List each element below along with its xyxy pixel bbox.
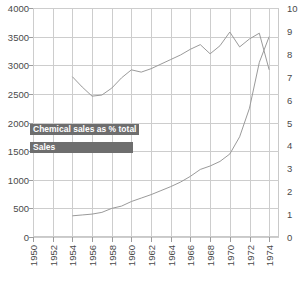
right-axis-tick-label: 10 <box>287 3 298 14</box>
x-axis-tick-label: 1960 <box>126 245 137 266</box>
x-axis-tick <box>92 237 93 242</box>
line-chemical-percent <box>72 32 269 96</box>
x-axis-tick <box>269 237 270 242</box>
right-axis-tick-label: 4 <box>287 140 292 151</box>
legend-sales: Sales <box>30 142 133 153</box>
x-axis-tick-label: 1964 <box>166 245 177 266</box>
left-axis-tick-label: 3500 <box>8 31 29 42</box>
right-axis-tick-label: 8 <box>287 48 292 59</box>
left-axis-tick-label: 1500 <box>8 146 29 157</box>
right-axis-tick-label: 9 <box>287 25 292 36</box>
right-axis-tick-label: 0 <box>287 232 292 243</box>
x-axis-tick <box>230 237 231 242</box>
legend-chemical-percent: Chemical sales as % total <box>30 124 139 135</box>
x-axis-tick-label: 1956 <box>87 245 98 266</box>
right-axis: 012345678910 <box>283 8 303 237</box>
x-axis-tick-label: 1958 <box>107 245 118 266</box>
x-axis-tick-label: 1968 <box>205 245 216 266</box>
x-axis-tick <box>72 237 73 242</box>
x-axis-tick <box>210 237 211 242</box>
right-axis-tick-label: 5 <box>287 117 292 128</box>
x-axis-tick <box>250 237 251 242</box>
right-axis-tick-label: 6 <box>287 94 292 105</box>
x-axis-tick-label: 1952 <box>48 245 59 266</box>
left-axis-tick-label: 2000 <box>8 117 29 128</box>
right-axis-tick-label: 2 <box>287 186 292 197</box>
x-axis-tick <box>171 237 172 242</box>
x-axis-tick-label: 1966 <box>185 245 196 266</box>
x-axis-tick-label: 1972 <box>245 245 256 266</box>
chart-container: 05001000150020002500300035004000 0123456… <box>0 0 304 285</box>
x-axis-tick <box>131 237 132 242</box>
x-axis-tick <box>151 237 152 242</box>
x-axis-tick <box>190 237 191 242</box>
left-axis-tick-label: 4000 <box>8 3 29 14</box>
series-lines <box>33 8 279 237</box>
x-axis-tick-label: 1970 <box>225 245 236 266</box>
x-axis-tick <box>33 237 34 242</box>
x-axis-tick-label: 1950 <box>28 245 39 266</box>
x-axis-tick <box>53 237 54 242</box>
right-axis-tick-label: 1 <box>287 209 292 220</box>
x-axis: 1950195219541956195819601962196419661968… <box>33 237 279 285</box>
x-axis-tick-label: 1962 <box>146 245 157 266</box>
left-axis-tick-label: 3000 <box>8 60 29 71</box>
left-axis-tick-label: 1000 <box>8 174 29 185</box>
x-axis-tick <box>112 237 113 242</box>
x-axis-tick-label: 1954 <box>67 245 78 266</box>
left-axis: 05001000150020002500300035004000 <box>0 8 29 237</box>
left-axis-tick-label: 2500 <box>8 88 29 99</box>
plot-area <box>33 8 279 237</box>
right-axis-tick-label: 7 <box>287 71 292 82</box>
x-axis-tick-label: 1974 <box>264 245 275 266</box>
right-axis-tick-label: 3 <box>287 163 292 174</box>
left-axis-tick-label: 500 <box>13 203 29 214</box>
